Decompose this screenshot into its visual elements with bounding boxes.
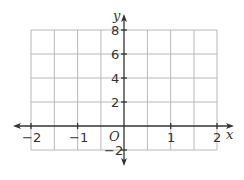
x-tick-label-1: 1 xyxy=(167,130,175,145)
y-tick-label-2: 2 xyxy=(111,95,119,110)
x-tick-label-neg2: −2 xyxy=(22,130,41,145)
x-tick-label-2: 2 xyxy=(213,130,221,145)
coordinate-grid: y x O 8 6 4 2 −2 −2 −1 1 2 xyxy=(0,0,244,180)
y-tick-label-6: 6 xyxy=(111,47,119,62)
x-axis-label: x xyxy=(226,127,234,142)
x-tick-label-neg1: −1 xyxy=(69,130,88,145)
y-tick-label-8: 8 xyxy=(111,23,119,38)
origin-label: O xyxy=(109,129,120,144)
y-tick-label-4: 4 xyxy=(111,71,119,86)
y-axis-label: y xyxy=(112,8,121,23)
y-tick-label-neg2: −2 xyxy=(104,143,123,158)
